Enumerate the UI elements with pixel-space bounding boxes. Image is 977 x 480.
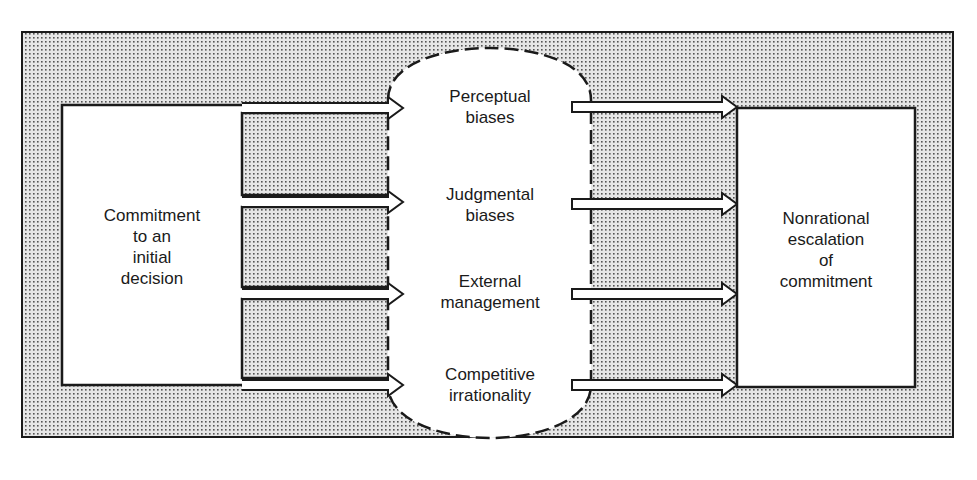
source-label-line: initial xyxy=(62,247,242,268)
outcome-label-line: escalation xyxy=(737,229,915,250)
outcome-label-line: of xyxy=(737,250,915,271)
factor-label-line: Judgmental xyxy=(400,184,580,205)
factor-label-line: management xyxy=(400,292,580,313)
source-label-line: decision xyxy=(62,268,242,289)
factor-label-line: Competitive xyxy=(400,364,580,385)
factor-label-line: irrationality xyxy=(400,385,580,406)
outcome-label-line: Nonrational xyxy=(737,208,915,229)
factor-perceptual-label: Perceptual biases xyxy=(400,86,580,128)
factor-external-label: External management xyxy=(400,271,580,313)
source-label: Commitment to an initial decision xyxy=(62,205,242,289)
factor-label-line: External xyxy=(400,271,580,292)
source-label-line: to an xyxy=(62,226,242,247)
outcome-label-line: commitment xyxy=(737,271,915,292)
factor-competitive-label: Competitive irrationality xyxy=(400,364,580,406)
source-label-line: Commitment xyxy=(62,205,242,226)
factor-judgmental-label: Judgmental biases xyxy=(400,184,580,226)
factor-label-line: Perceptual xyxy=(400,86,580,107)
outcome-label: Nonrational escalation of commitment xyxy=(737,208,915,292)
factor-label-line: biases xyxy=(400,107,580,128)
factor-label-line: biases xyxy=(400,205,580,226)
